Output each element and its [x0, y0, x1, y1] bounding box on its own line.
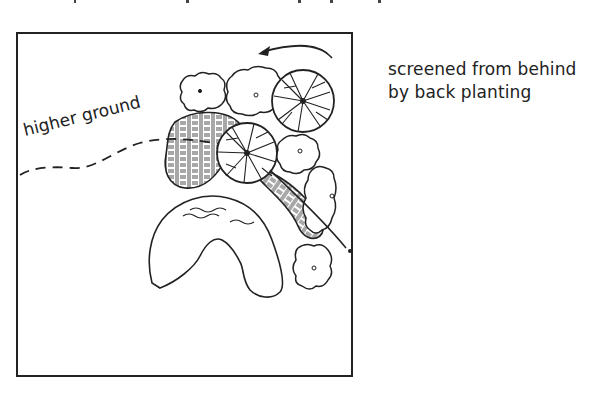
- curved-arrow-icon: [258, 46, 332, 58]
- annotation-line-2: by back planting: [388, 81, 576, 104]
- shrub-1: [180, 72, 225, 111]
- shrub-3: [276, 134, 319, 173]
- tree-canopy-2: [217, 123, 277, 183]
- edge-marker: [348, 249, 352, 253]
- annotation-screened: screened from behind by back planting: [388, 58, 576, 104]
- cropped-text-fragments: [74, 0, 381, 3]
- shrub-4: [303, 166, 336, 233]
- tree-canopy-1: [272, 70, 334, 132]
- pond: [149, 196, 282, 297]
- annotation-line-1: screened from behind: [388, 58, 576, 81]
